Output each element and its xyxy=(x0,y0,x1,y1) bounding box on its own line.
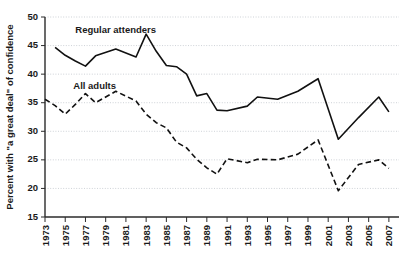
series-inline-labels: Regular attendersAll adults xyxy=(73,24,156,91)
series-label-all-adults: All adults xyxy=(73,80,116,91)
x-tick-label: 1991 xyxy=(222,224,233,246)
x-tick-label: 1983 xyxy=(141,225,152,246)
y-axis-tick-labels: 1520253035404550 xyxy=(27,11,38,222)
series-line-all-adults xyxy=(45,91,389,190)
x-axis-tick-labels: 1973197519771979198119831985198719891991… xyxy=(40,224,395,246)
x-tick-label: 1979 xyxy=(100,225,111,246)
x-tick-label: 1975 xyxy=(60,224,71,246)
x-tick-label: 1981 xyxy=(120,224,131,246)
y-tick-label: 25 xyxy=(27,153,38,164)
gridlines-group xyxy=(45,17,399,188)
figure-container: 1520253035404550 19731975197719791981198… xyxy=(0,0,405,271)
x-tick-label: 2005 xyxy=(363,224,374,246)
x-tick-label: 1987 xyxy=(181,225,192,246)
x-tick-label: 1985 xyxy=(161,224,172,246)
line-chart: 1520253035404550 19731975197719791981198… xyxy=(0,0,405,271)
x-tick-label: 1997 xyxy=(282,225,293,246)
x-tick-label: 1995 xyxy=(262,224,273,246)
x-tick-label: 1973 xyxy=(40,225,51,246)
y-tick-label: 15 xyxy=(27,211,38,222)
y-tick-label: 50 xyxy=(27,11,38,22)
x-tick-label: 1993 xyxy=(242,225,253,246)
x-tick-label: 1999 xyxy=(302,225,313,246)
y-tick-label: 20 xyxy=(27,182,38,193)
y-axis-title: Percent with "a great deal" of confidenc… xyxy=(4,24,15,209)
series-label-regular-attenders: Regular attenders xyxy=(75,24,156,35)
x-tick-label: 2003 xyxy=(343,225,354,246)
y-tick-label: 40 xyxy=(27,68,38,79)
y-tick-label: 35 xyxy=(27,96,38,107)
y-tick-label: 45 xyxy=(27,39,38,50)
x-axis-ticks-group xyxy=(45,217,389,222)
x-tick-label: 2001 xyxy=(323,224,334,246)
x-tick-label: 1989 xyxy=(201,225,212,246)
y-tick-label: 30 xyxy=(27,125,38,136)
x-tick-label: 2007 xyxy=(383,225,394,246)
x-tick-label: 1977 xyxy=(80,225,91,246)
data-series-group xyxy=(45,34,389,191)
